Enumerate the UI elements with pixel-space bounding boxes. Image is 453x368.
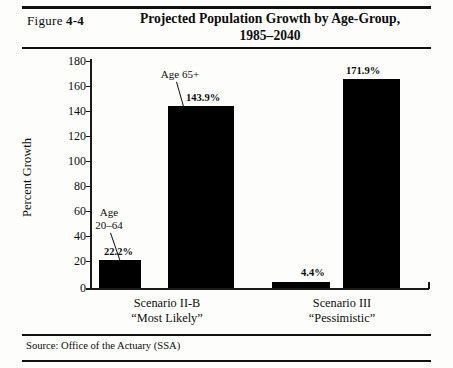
y-tick-180: 180 <box>52 55 86 67</box>
y-tick-20: 20 <box>52 255 86 267</box>
y-tick-120: 120 <box>52 130 86 142</box>
source-note: Source: Office of the Actuary (SSA) <box>26 340 180 351</box>
source-top-rule <box>22 334 431 336</box>
value-label-171-9: 171.9% <box>346 65 380 76</box>
chart-title-line2: 1985–2040 <box>120 27 420 44</box>
figure-label-word: Figure <box>27 13 63 28</box>
annotation-age-20-64: Age 20–64 <box>79 206 139 231</box>
bar-scenario3-age65plus <box>343 79 400 288</box>
y-tick-80: 80 <box>52 180 86 192</box>
figure-label: Figure 4-4 <box>27 13 84 29</box>
chart-title-line1: Projected Population Growth by Age-Group… <box>140 11 400 26</box>
x-axis-line <box>86 288 429 290</box>
plot-area: Percent Growth 180 160 140 120 100 80 60… <box>0 48 453 334</box>
category-label-scenario-3-sub: “Pessimistic” <box>262 311 422 326</box>
value-label-4-4: 4.4% <box>301 267 325 278</box>
figure-label-number: 4-4 <box>66 13 84 28</box>
annotation-age-65-plus: Age 65+ <box>143 68 217 81</box>
y-tick-140: 140 <box>52 105 86 117</box>
annotation-age-20-64-line1: Age <box>100 206 118 218</box>
y-tick-40: 40 <box>52 230 86 242</box>
bottom-rule <box>22 360 431 362</box>
bar-scenario2b-age65plus <box>168 106 234 288</box>
y-tick-100: 100 <box>52 155 86 167</box>
y-axis-line <box>90 59 92 289</box>
y-axis-title: Percent Growth <box>20 113 35 243</box>
category-label-scenario-3-main: Scenario III <box>313 296 371 310</box>
chart-title: Projected Population Growth by Age-Group… <box>120 10 420 44</box>
x-axis-end-tick <box>428 282 430 289</box>
y-tick-0: 0 <box>52 282 86 294</box>
annotation-age-65-plus-line1: Age 65+ <box>161 68 199 80</box>
annotation-age-20-64-line2: 20–64 <box>79 219 139 232</box>
leader-line-age-65-plus <box>176 82 184 108</box>
bar-scenario2b-age20-64 <box>99 260 141 288</box>
figure-page: Figure 4-4 Projected Population Growth b… <box>0 0 453 368</box>
category-label-scenario-2b-main: Scenario II-B <box>134 296 201 310</box>
category-label-scenario-2b: Scenario II-B “Most Likely” <box>87 296 247 326</box>
value-label-143-9: 143.9% <box>186 92 220 103</box>
category-label-scenario-3: Scenario III “Pessimistic” <box>262 296 422 326</box>
bar-scenario3-age20-64 <box>272 282 330 288</box>
category-label-scenario-2b-sub: “Most Likely” <box>87 311 247 326</box>
y-tick-160: 160 <box>52 80 86 92</box>
top-rule <box>22 6 431 9</box>
